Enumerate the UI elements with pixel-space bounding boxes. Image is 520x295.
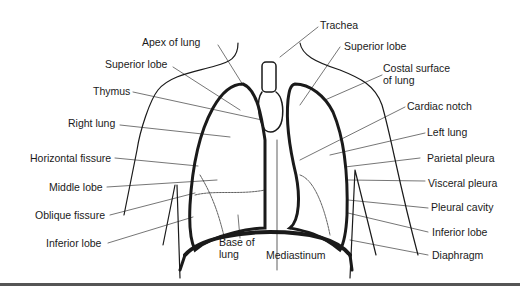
label-base-of-lung-2: lung — [219, 248, 239, 260]
label-apex-of-lung: Apex of lung — [142, 36, 200, 48]
label-base-of-lung: Base of — [219, 236, 255, 248]
label-cardiac-notch: Cardiac notch — [407, 100, 472, 112]
label-right-lung: Right lung — [68, 117, 115, 129]
label-middle-lobe: Middle lobe — [49, 181, 103, 193]
label-inferior-lobe-left: Inferior lobe — [432, 226, 487, 238]
label-superior-lobe-left: Superior lobe — [344, 40, 406, 52]
label-horizontal-fissure: Horizontal fissure — [30, 152, 111, 164]
label-thymus: Thymus — [93, 85, 130, 97]
label-diaphragm: Diaphragm — [432, 249, 483, 261]
label-inferior-lobe-right: Inferior lobe — [46, 237, 101, 249]
label-visceral-pleura: Visceral pleura — [428, 177, 497, 189]
label-left-lung: Left lung — [427, 126, 467, 138]
label-mediastinum: Mediastinum — [266, 249, 326, 261]
label-costal-surface: Costal surface — [383, 62, 450, 74]
lung-anatomy-diagram: Apex of lung Superior lobe Thymus Right … — [0, 0, 520, 295]
label-oblique-fissure: Oblique fissure — [35, 209, 105, 221]
label-parietal-pleura: Parietal pleura — [427, 152, 495, 164]
label-superior-lobe-right: Superior lobe — [105, 58, 167, 70]
label-trachea: Trachea — [320, 19, 358, 31]
label-pleural-cavity: Pleural cavity — [431, 201, 493, 213]
label-costal-surface-2: of lung — [383, 74, 415, 86]
bottom-divider — [0, 283, 520, 286]
